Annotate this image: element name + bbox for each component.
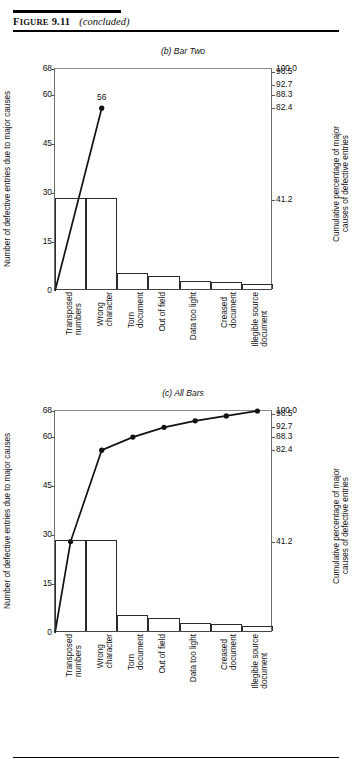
cumulative-point <box>130 435 135 440</box>
tick-mark <box>271 200 275 201</box>
chart-c-left-tick: 0 <box>47 627 52 637</box>
figure-number: 9.11 <box>52 16 71 27</box>
header-rule <box>13 30 339 32</box>
chart-c-subtitle: (c) All Bars <box>0 388 352 398</box>
chart-b-left-tick: 0 <box>47 285 52 295</box>
bar <box>86 540 117 631</box>
chart-c-left-tick: 68 <box>43 405 52 415</box>
tick-mark <box>271 437 275 438</box>
chart-c-right-tick: 88.3 <box>276 431 292 441</box>
chart-b-left-axis-title: Number of defective entries due to major… <box>3 68 12 290</box>
category-label: Torn document <box>127 292 145 328</box>
chart-c-right-axis-title: Cumulative percentage of major causes of… <box>332 410 350 642</box>
bar <box>242 284 273 289</box>
chart-b-left-tick: 45 <box>43 138 52 148</box>
bar <box>180 623 211 631</box>
category-label: Out of field <box>158 634 167 674</box>
category-label: Illegible source document <box>251 634 269 689</box>
figure-page: FIGURE 9.11 (concluded) (b) Bar Two Numb… <box>0 0 352 778</box>
tick-mark <box>51 95 55 96</box>
bar <box>117 273 148 289</box>
category-label: Creased document <box>220 634 238 670</box>
category-label: Illegible source document <box>251 292 269 347</box>
chart-c-right-tick: 98.5 <box>276 408 292 418</box>
cumulative-point <box>99 106 104 111</box>
category-label: Torn document <box>127 634 145 670</box>
chart-c-left-tick: 15 <box>43 578 52 588</box>
category-label: Data too light <box>189 292 198 340</box>
tick-mark <box>51 411 55 412</box>
chart-b-category-labels: Transposed numbersWrong characterTorn do… <box>54 292 272 350</box>
tick-mark <box>271 414 275 415</box>
category-label: Creased document <box>220 292 238 328</box>
tick-mark <box>51 437 55 438</box>
bar <box>86 198 117 289</box>
cumulative-point <box>255 408 260 413</box>
chart-b-plot-area: Number of defective entries due to major… <box>0 60 352 350</box>
chart-b-subtitle: (b) Bar Two <box>0 46 352 56</box>
figure-header: FIGURE 9.11 (concluded) <box>13 10 339 32</box>
chart-c-left-tick: 60 <box>43 431 52 441</box>
chart-b-right-axis-title: Cumulative percentage of major causes of… <box>332 68 350 300</box>
chart-all-bars: (c) All Bars Number of defective entries… <box>0 388 352 692</box>
figure-status: (concluded) <box>79 16 129 27</box>
bar <box>148 276 179 289</box>
bar <box>211 624 242 631</box>
chart-c-right-tick: 92.7 <box>276 421 292 431</box>
cumulative-point <box>99 448 104 453</box>
tick-mark <box>51 486 55 487</box>
cumulative-point <box>224 413 229 418</box>
chart-c-right-tick: 41.2 <box>276 536 292 546</box>
point-value-label: 56 <box>97 92 106 102</box>
chart-b-right-tick: 41.2 <box>276 194 292 204</box>
category-label: Out of field <box>158 292 167 332</box>
chart-c-left-tick: 45 <box>43 480 52 490</box>
tick-mark <box>271 95 275 96</box>
chart-b-frame: 56 <box>54 68 272 290</box>
tick-mark <box>51 144 55 145</box>
chart-c-plot-area: Number of defective entries due to major… <box>0 402 352 692</box>
tick-mark <box>271 542 275 543</box>
chart-b-right-tick: 92.7 <box>276 79 292 89</box>
chart-bar-two: (b) Bar Two Number of defective entries … <box>0 46 352 350</box>
tick-mark <box>51 69 55 70</box>
bar <box>180 281 211 289</box>
bar <box>117 615 148 631</box>
cumulative-point <box>193 418 198 423</box>
cumulative-point <box>161 425 166 430</box>
tick-mark <box>271 85 275 86</box>
category-label: Transposed numbers <box>65 292 83 335</box>
bar <box>211 282 242 289</box>
chart-c-left-tick: 30 <box>43 529 52 539</box>
tick-mark <box>271 72 275 73</box>
chart-b-left-tick: 15 <box>43 236 52 246</box>
bar <box>148 618 179 631</box>
bar <box>55 540 86 631</box>
bar <box>55 198 86 289</box>
category-label: Wrong character <box>96 634 114 668</box>
chart-c-right-tick: 82.4 <box>276 444 292 454</box>
chart-b-left-tick: 30 <box>43 187 52 197</box>
tick-mark <box>51 535 55 536</box>
chart-b-left-tick: 68 <box>43 63 52 73</box>
chart-b-right-tick: 98.5 <box>276 66 292 76</box>
footer-rule <box>13 757 339 758</box>
chart-c-category-labels: Transposed numbersWrong characterTorn do… <box>54 634 272 692</box>
category-label: Data too light <box>189 634 198 682</box>
category-label: Wrong character <box>96 292 114 326</box>
chart-b-left-tick: 60 <box>43 89 52 99</box>
figure-caption: FIGURE 9.11 (concluded) <box>13 13 339 27</box>
figure-label: FIGURE 9.11 <box>13 16 70 27</box>
tick-mark <box>271 108 275 109</box>
chart-c-frame <box>54 410 272 632</box>
category-label: Transposed numbers <box>65 634 83 677</box>
tick-mark <box>271 427 275 428</box>
tick-mark <box>271 450 275 451</box>
tick-mark <box>51 193 55 194</box>
chart-c-left-axis-title: Number of defective entries due to major… <box>3 410 12 632</box>
bar <box>242 626 273 631</box>
figure-label-smallcaps: IGURE <box>20 17 49 27</box>
chart-b-right-tick: 82.4 <box>276 102 292 112</box>
chart-b-right-tick: 88.3 <box>276 89 292 99</box>
